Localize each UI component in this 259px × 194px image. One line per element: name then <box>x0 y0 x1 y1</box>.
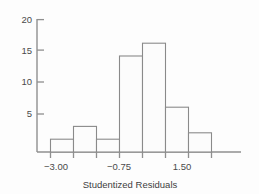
x-tick-label-neg300: −3.00 <box>44 161 68 172</box>
y-tick-label-10: 10 <box>21 76 32 87</box>
histogram-figure: 20 15 10 5 −3.00 <box>0 0 259 194</box>
histogram-bar <box>120 56 143 152</box>
histogram-bar <box>166 107 189 152</box>
y-axis-ticks <box>37 20 44 114</box>
histogram-bar <box>74 126 97 152</box>
x-axis-tick-labels: −3.00 −0.75 1.50 <box>44 161 191 172</box>
histogram-bars <box>51 43 212 152</box>
y-axis-tick-labels: 20 15 10 5 <box>21 14 32 119</box>
histogram-bar <box>143 43 166 152</box>
x-tick-label-150: 1.50 <box>173 161 192 172</box>
histogram-bar <box>51 139 74 152</box>
x-axis-ticks <box>51 152 212 158</box>
histogram-plot: 20 15 10 5 −3.00 <box>0 0 259 194</box>
histogram-bar <box>97 139 120 152</box>
y-tick-label-5: 5 <box>27 108 32 119</box>
y-tick-label-20: 20 <box>21 14 32 25</box>
y-tick-label-15: 15 <box>21 45 32 56</box>
histogram-bar <box>189 133 212 152</box>
x-tick-label-neg075: −0.75 <box>107 161 131 172</box>
x-axis-title: Studentized Residuals <box>83 179 178 190</box>
